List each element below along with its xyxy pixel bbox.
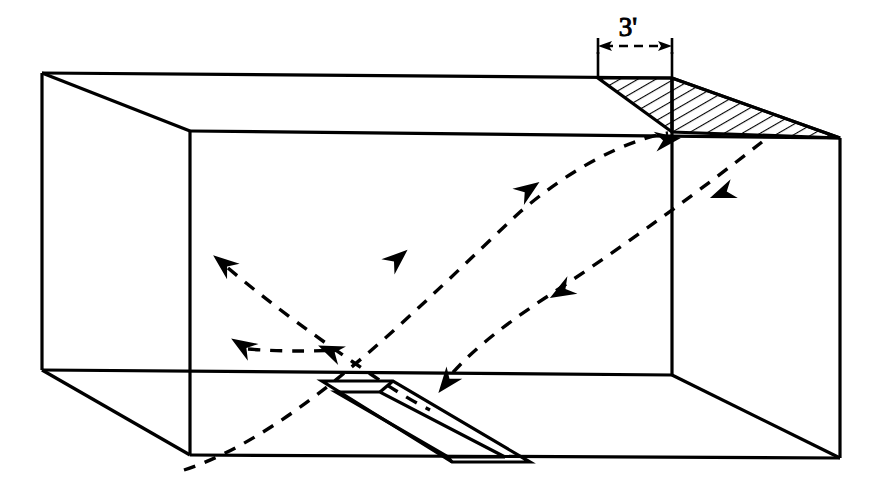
edge-bottom-right-receding (672, 375, 840, 458)
dimension-arrow-right (658, 41, 672, 51)
soffit-wedge (598, 78, 840, 138)
back-bottom-edge (42, 370, 672, 375)
airflow-cross-jet-descending (228, 268, 430, 410)
isometric-room-diagram: 3' (0, 0, 876, 488)
edge-bottom-left-receding (42, 370, 190, 455)
arrow-supply-mid-high (512, 174, 545, 205)
arrow-return-mid (545, 276, 578, 306)
floor-slot-diffuser (322, 381, 530, 462)
back-top-edge (42, 73, 672, 78)
edge-top-left-receding (42, 73, 190, 131)
front-bottom-edge (190, 455, 840, 458)
airflow-supply-jet-upper (184, 133, 668, 470)
arrow-supply-mid-low (381, 242, 414, 274)
floor-slot-inner (336, 392, 505, 457)
arrow-return-floor (431, 366, 463, 399)
dimension-label: 3' (619, 12, 637, 42)
airflow-return-path-right (446, 142, 762, 381)
arrow-cross-lowleft (226, 330, 259, 361)
soffit-hatch-fill (598, 78, 840, 138)
arrow-return-top (706, 179, 737, 207)
dimension-annotation: 3' (598, 12, 672, 78)
airflow-arrowheads (207, 128, 738, 399)
airflow-curves (184, 133, 762, 470)
diagram-root: 3' (0, 0, 876, 488)
